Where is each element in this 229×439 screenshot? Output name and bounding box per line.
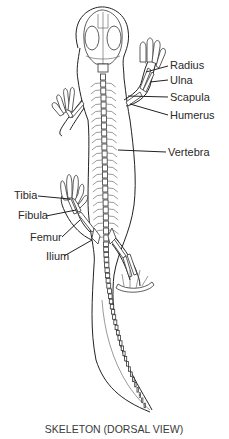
label-radius: Radius [170,59,205,71]
label-vertebra: Vertebra [168,146,210,158]
rib [91,111,101,115]
rib [93,195,103,199]
vertebra [139,393,140,398]
vertebra [104,242,109,247]
vertebra [131,372,133,377]
rib [109,223,119,227]
rib [93,209,103,213]
vertebra [101,109,106,115]
rib [106,97,116,101]
vertebra [104,247,109,252]
vertebra [110,304,113,309]
rib [106,90,116,94]
vertebra [103,207,108,213]
vertebra [109,299,113,304]
rib [107,139,117,143]
rib [93,188,103,192]
left-forelimb [52,87,84,136]
vertebra [101,81,106,87]
rib [92,125,102,129]
rib [107,125,117,129]
vertebra [104,258,109,263]
vertebra [120,341,123,346]
vertebra [102,137,107,143]
label-ilium: Ilium [46,250,69,262]
left-hindlimb [61,174,95,240]
skull [84,10,122,72]
label-scapula: Scapula [170,91,211,103]
vertebra [129,367,131,372]
label-fibula: Fibula [18,209,49,221]
rib [92,132,102,136]
vertebra [101,74,106,80]
vertebra [102,151,107,157]
rib [107,146,117,150]
figure-caption: SKELETON (DORSAL VIEW) [45,423,183,435]
vertebra [101,88,106,94]
vertebra [111,310,114,315]
salamander-skeleton-diagram: Radius Ulna Scapula Humerus Vertebra Tib… [0,0,229,439]
vertebra [118,336,121,341]
vertebra [125,356,127,361]
label-ulna: Ulna [170,74,194,86]
vertebra [102,130,107,136]
label-humerus: Humerus [170,109,215,121]
vertebra [127,362,129,367]
rib [93,202,103,206]
rib [92,167,102,171]
vertebra [114,320,117,325]
vertebra [104,221,109,227]
rib [91,104,101,108]
vertebra [133,377,135,382]
rib [107,167,117,171]
vertebra-leader [118,150,166,152]
right-hindlimb [109,236,154,292]
vertebra [108,294,112,299]
vertebra [121,346,123,351]
vertebra [106,278,110,283]
vertebra [105,268,109,273]
fibula-leader [46,210,76,216]
vertebra [108,289,112,294]
vertebra [103,214,108,220]
rib [108,216,118,220]
rib [92,153,102,157]
vertebra [101,116,106,122]
vertebra [103,200,108,206]
vertebra [103,179,108,185]
rib [108,195,118,199]
vertebra [101,95,106,101]
rib [108,181,118,185]
vertebra [137,388,138,393]
rib [92,160,102,164]
vertebra [123,351,125,356]
rib [92,146,102,150]
humerus-leader [130,104,168,115]
vertebra [103,193,108,199]
ulna-leader [150,80,168,82]
vertebra [115,325,118,330]
rib [108,209,118,213]
rib [93,181,103,185]
vertebra [102,158,107,164]
rib [108,188,118,192]
vertebra [142,398,143,403]
vertebra [102,123,107,129]
vertebra [104,228,109,234]
vertebra [117,330,120,335]
rib [91,90,101,94]
rib [106,118,116,122]
rib [91,97,101,101]
rib [108,174,118,178]
rib [106,111,116,115]
vertebra [144,403,145,408]
rib [107,132,117,136]
vertebra [106,273,110,278]
rib [93,216,103,220]
vertebra [104,252,109,257]
rib [93,174,103,178]
rib [106,104,116,108]
vertebra [107,284,111,289]
label-femur: Femur [30,231,62,243]
vertebra [103,186,108,192]
